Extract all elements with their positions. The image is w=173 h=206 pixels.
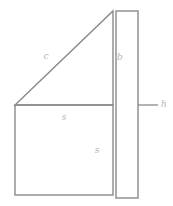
label-bar-width-h: h bbox=[161, 99, 167, 109]
geometry-diagram: c b s s h bbox=[0, 0, 173, 206]
label-square-side-s: s bbox=[95, 145, 100, 155]
label-hypotenuse-c: c bbox=[43, 51, 48, 61]
vertical-bar-shape bbox=[116, 11, 138, 198]
figure-canvas: c b s s h bbox=[0, 0, 173, 206]
label-square-top-s: s bbox=[62, 112, 67, 122]
label-bar-height-b: b bbox=[117, 52, 123, 62]
right-triangle-shape bbox=[15, 11, 113, 105]
